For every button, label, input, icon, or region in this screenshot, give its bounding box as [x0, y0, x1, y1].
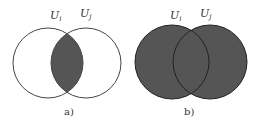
venn-diagrams: Ui Uj a) Ui Uj b) — [0, 0, 260, 127]
caption-b: b) — [184, 106, 194, 117]
venn-diagram-a: Ui Uj a) — [13, 7, 121, 117]
label-ui: Ui — [170, 9, 182, 23]
label-uj: Uj — [80, 7, 92, 21]
label-uj: Uj — [200, 7, 212, 21]
venn-diagram-b: Ui Uj b) — [135, 7, 247, 117]
label-ui: Ui — [50, 9, 62, 23]
caption-a: a) — [64, 106, 74, 117]
